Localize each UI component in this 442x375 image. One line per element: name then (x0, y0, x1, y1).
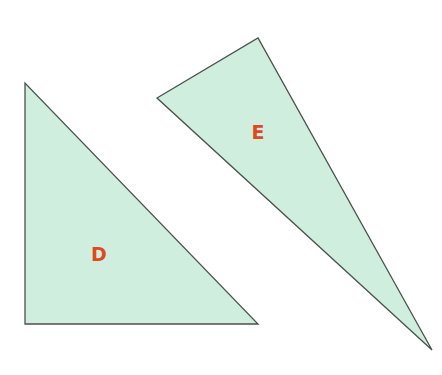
diagram-canvas: D E (0, 0, 442, 375)
triangle-e-label: E (252, 121, 265, 143)
triangle-d-label: D (91, 243, 107, 265)
